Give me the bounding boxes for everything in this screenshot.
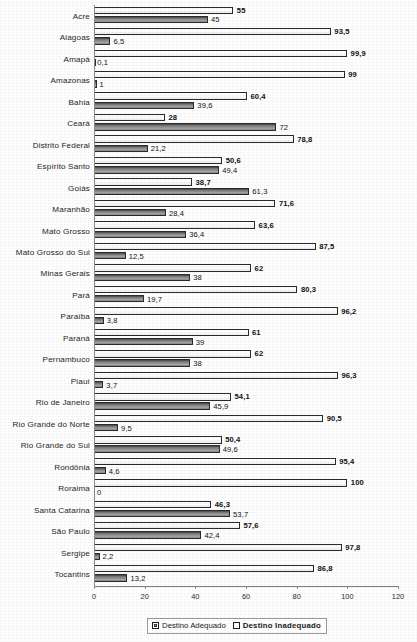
bar-group: 97,82,2 <box>94 543 417 562</box>
category-label: Alagoas <box>60 33 90 42</box>
value-label-inadequado: 78,8 <box>297 136 312 144</box>
bar-group: 60,439,6 <box>94 92 417 111</box>
value-label-adequado: 38 <box>193 274 202 282</box>
x-tick-label: 60 <box>242 592 250 601</box>
bar-group: 6238 <box>94 350 417 369</box>
bar-destino-inadequado <box>94 28 331 35</box>
category-label: Paraíba <box>61 312 90 321</box>
chart-row: Rio de Janeiro54,145,9 <box>0 392 417 413</box>
bar-destino-adequado <box>94 102 194 109</box>
category-label: Rio de Janeiro <box>36 398 90 407</box>
chart-row: Tocantins86,813,2 <box>0 563 417 584</box>
category-label: Piauí <box>71 376 90 385</box>
bar-group: 71,628,4 <box>94 200 417 219</box>
value-label-adequado: 6,5 <box>113 38 124 46</box>
value-label-inadequado: 99,9 <box>351 50 366 58</box>
value-label-adequado: 49,6 <box>223 446 238 454</box>
bar-destino-inadequado <box>94 522 240 529</box>
legend-label-inadequado: Destino Inadequado <box>243 621 321 630</box>
value-label-adequado: 72 <box>279 124 288 132</box>
x-tick-label: 40 <box>191 592 199 601</box>
bar-destino-adequado <box>94 37 110 44</box>
value-label-adequado: 0 <box>97 489 101 497</box>
bar-destino-adequado <box>94 359 190 366</box>
chart-row: Santa Catarina46,353,7 <box>0 499 417 520</box>
value-label-adequado: 0,1 <box>97 59 108 67</box>
x-tick-label: 20 <box>141 592 149 601</box>
x-tick-label: 120 <box>392 592 404 601</box>
bar-destino-adequado <box>94 317 104 324</box>
chart-row: Paraná6139 <box>0 327 417 348</box>
bar-destino-inadequado <box>94 286 297 293</box>
value-label-inadequado: 96,2 <box>341 308 356 316</box>
x-tick <box>246 586 247 589</box>
bar-destino-adequado <box>94 531 201 538</box>
value-label-inadequado: 96,3 <box>341 372 356 380</box>
chart-row: Distrito Federal78,821,2 <box>0 134 417 155</box>
value-label-adequado: 39 <box>196 339 205 347</box>
category-label: Mato Grosso do Sul <box>16 248 90 257</box>
bar-destino-adequado <box>94 231 186 238</box>
bar-destino-inadequado <box>94 178 192 185</box>
bar-group: 87,512,5 <box>94 242 417 261</box>
value-label-inadequado: 99 <box>348 71 357 79</box>
bar-destino-inadequado <box>94 479 347 486</box>
bar-destino-inadequado <box>94 7 233 14</box>
bar-destino-adequado <box>94 209 166 216</box>
chart-row: Pernambuco6238 <box>0 349 417 370</box>
bar-group: 96,23,8 <box>94 307 417 326</box>
category-label: Paraná <box>63 333 90 342</box>
value-label-inadequado: 63,6 <box>259 222 274 230</box>
bar-destino-adequado <box>94 123 276 130</box>
bar-group: 6139 <box>94 328 417 347</box>
value-label-inadequado: 38,7 <box>196 179 211 187</box>
value-label-adequado: 3,8 <box>107 317 118 325</box>
category-label: Pará <box>72 290 90 299</box>
bar-group: 2872 <box>94 114 417 133</box>
value-label-adequado: 38 <box>193 360 202 368</box>
category-label: São Paulo <box>51 527 90 536</box>
legend-item-destino-inadequado: Destino Inadequado <box>233 621 321 630</box>
bar-destino-adequado <box>94 510 230 517</box>
value-label-inadequado: 100 <box>351 479 364 487</box>
value-label-inadequado: 50,4 <box>225 436 240 444</box>
chart-row: Roraima1000 <box>0 478 417 499</box>
chart-row: Rio Grande do Norte90,59,5 <box>0 413 417 434</box>
value-label-adequado: 1 <box>100 81 104 89</box>
bar-destino-inadequado <box>94 114 165 121</box>
bar-destino-adequado <box>94 166 219 173</box>
value-label-adequado: 42,4 <box>204 532 219 540</box>
value-label-inadequado: 62 <box>255 265 264 273</box>
chart-row: Paraíba96,23,8 <box>0 306 417 327</box>
x-tick <box>195 586 196 589</box>
plot-area: Acre5545Alagoas93,56,5Amapá99,90,1Amazon… <box>0 0 417 642</box>
category-label: Acre <box>73 11 90 20</box>
bar-destino-adequado <box>94 424 118 431</box>
chart-row: Mato Grosso do Sul87,512,5 <box>0 241 417 262</box>
chart-row: Mato Grosso63,636,4 <box>0 220 417 241</box>
chart-row: Rondônia95,44,6 <box>0 456 417 477</box>
bar-destino-adequado <box>94 252 126 259</box>
bar-group: 80,319,7 <box>94 285 417 304</box>
category-label: Bahia <box>69 97 90 106</box>
value-label-inadequado: 54,1 <box>235 393 250 401</box>
value-label-adequado: 28,4 <box>169 210 184 218</box>
value-label-adequado: 21,2 <box>151 145 166 153</box>
value-label-inadequado: 87,5 <box>319 243 334 251</box>
bar-group: 90,59,5 <box>94 414 417 433</box>
chart-legend: Destino Adequado Destino Inadequado <box>147 618 327 634</box>
chart-row: Amapá99,90,1 <box>0 48 417 69</box>
value-label-adequado: 2,2 <box>103 553 114 561</box>
chart-row: Sergipe97,82,2 <box>0 542 417 563</box>
bar-group: 46,353,7 <box>94 500 417 519</box>
value-label-inadequado: 95,4 <box>339 458 354 466</box>
bar-group: 50,449,6 <box>94 436 417 455</box>
bar-destino-inadequado <box>94 565 314 572</box>
x-tick-label: 0 <box>92 592 96 601</box>
bar-chart: Acre5545Alagoas93,56,5Amapá99,90,1Amazon… <box>0 0 417 642</box>
value-label-adequado: 49,4 <box>222 167 237 175</box>
x-tick <box>94 586 95 589</box>
value-label-adequado: 53,7 <box>233 511 248 519</box>
category-label: Distrito Federal <box>33 140 90 149</box>
x-tick-label: 100 <box>341 592 353 601</box>
